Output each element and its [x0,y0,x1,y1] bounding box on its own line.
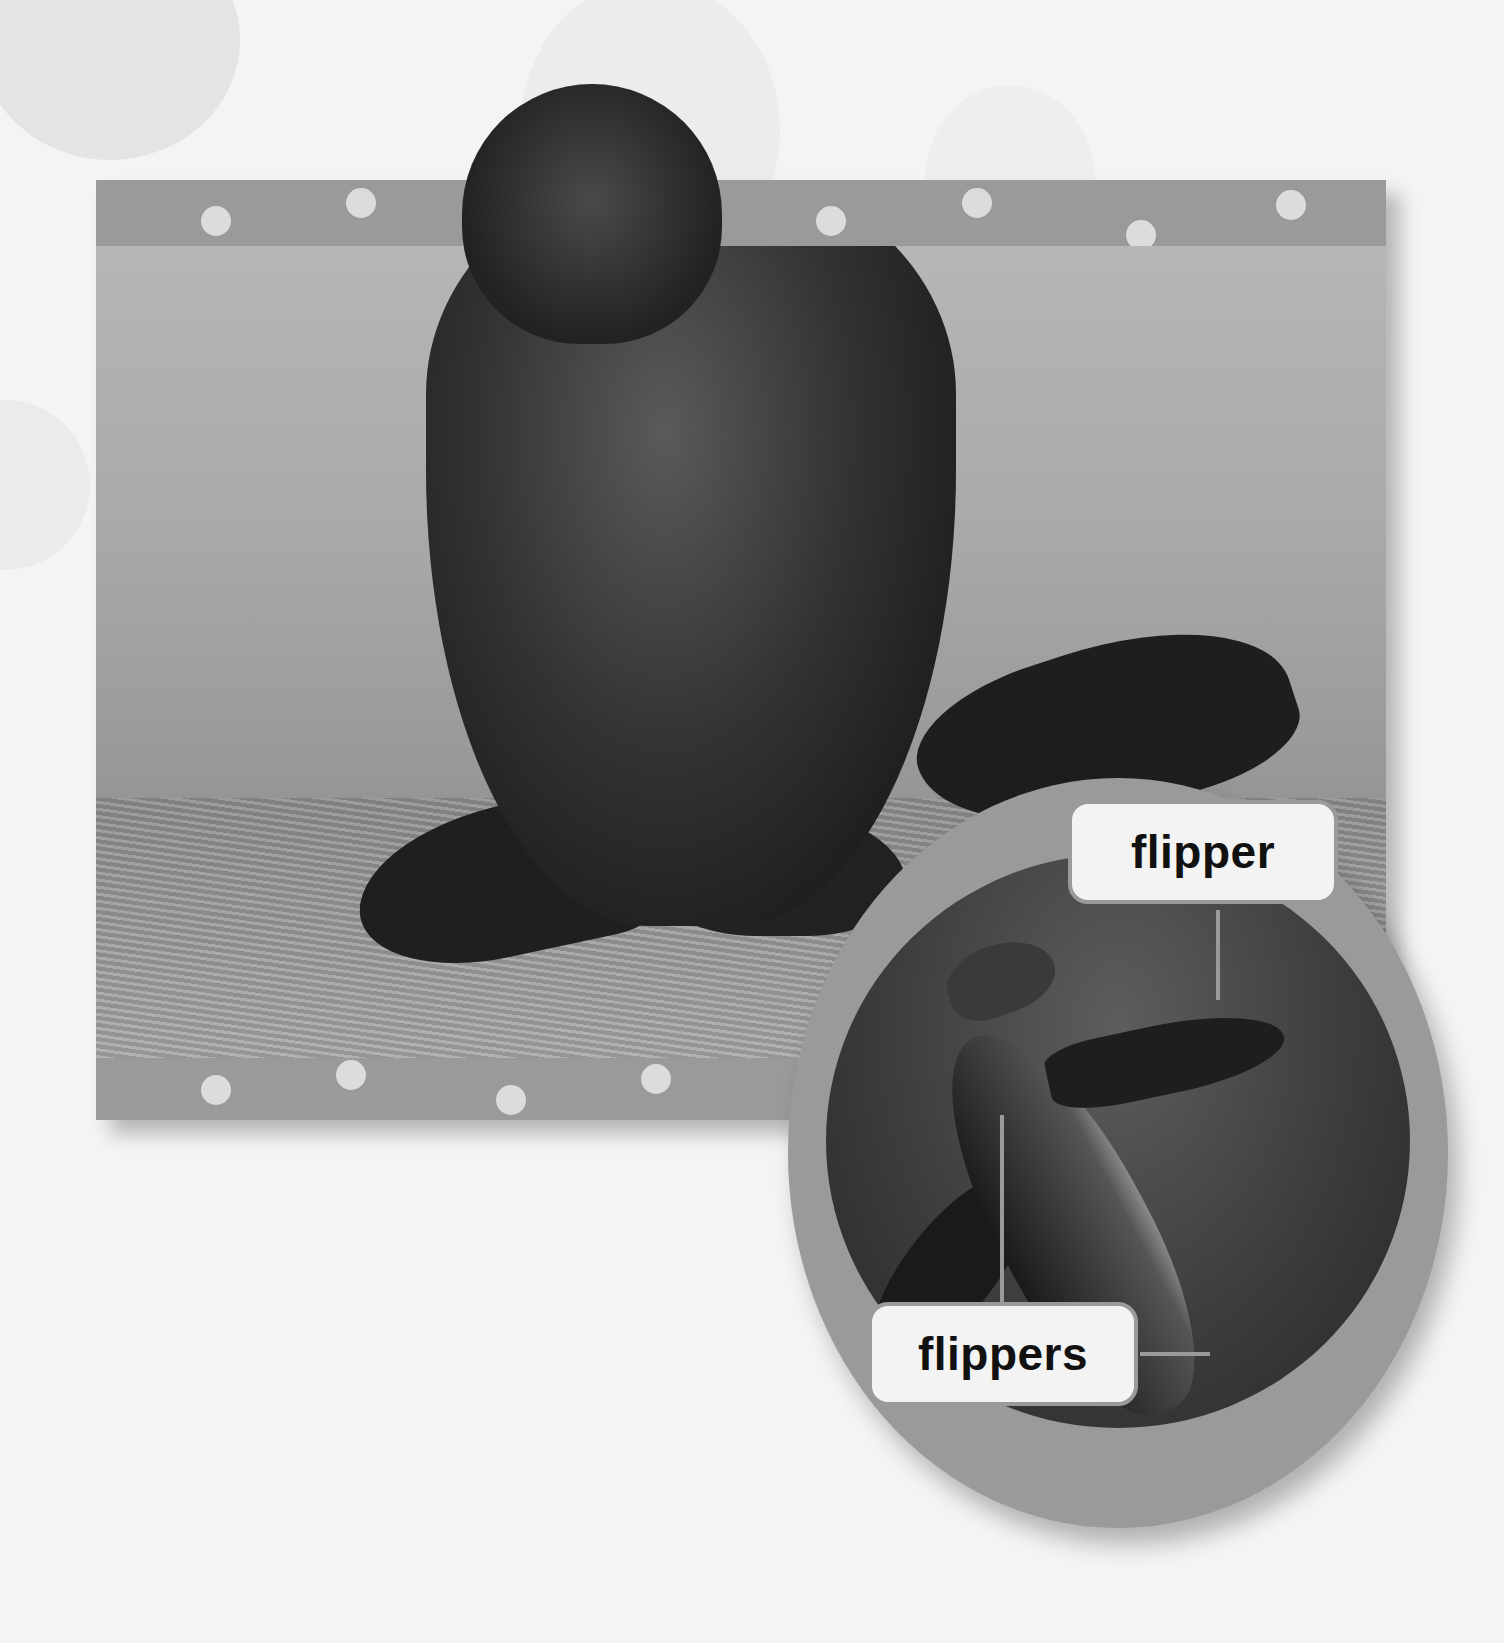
frame-dot [346,188,376,218]
flipper-connector [1216,910,1220,1000]
frame-dot [496,1085,526,1115]
fur-seal-head [462,84,722,344]
flippers-connector-vertical [1000,1115,1004,1305]
frame-dot [1276,190,1306,220]
frame-dot [201,1075,231,1105]
frame-dot [201,206,231,236]
label-flippers-text: flippers [918,1327,1088,1381]
frame-dot [641,1064,671,1094]
label-flipper: flipper [1068,800,1338,904]
bg-circle-4 [0,400,90,570]
sea-lion-right-flipper [1041,1000,1290,1118]
label-flippers: flippers [868,1302,1138,1406]
frame-dot [336,1060,366,1090]
sea-lion-head [937,927,1064,1030]
bg-circle-1 [0,0,240,160]
frame-dot [816,206,846,236]
frame-dot [962,188,992,218]
label-flipper-text: flipper [1131,825,1275,879]
flippers-connector-horizontal [1140,1352,1210,1356]
